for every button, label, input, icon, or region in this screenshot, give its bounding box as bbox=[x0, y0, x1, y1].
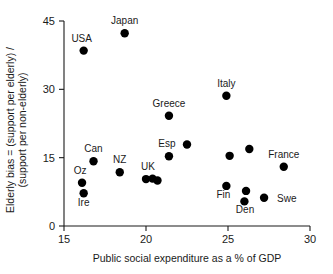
data-point-label-oz: Oz bbox=[74, 165, 87, 176]
data-point-esp bbox=[165, 152, 173, 160]
data-point-label-fin: Fin bbox=[216, 189, 230, 200]
data-point-label-greece: Greece bbox=[153, 98, 186, 109]
data-point-italy bbox=[222, 92, 230, 100]
data-point-nz bbox=[116, 168, 124, 176]
data-point-label-esp: Esp bbox=[158, 138, 176, 149]
y-tick-label: 45 bbox=[43, 15, 55, 27]
data-point-label-japan: Japan bbox=[111, 15, 138, 26]
data-point-label-swe: Swe bbox=[277, 193, 297, 204]
x-tick-label: 25 bbox=[222, 233, 234, 245]
y-tick-label: 15 bbox=[43, 152, 55, 164]
data-point-label-den: Den bbox=[236, 204, 254, 215]
y-tick-label: 30 bbox=[43, 83, 55, 95]
chart-axes bbox=[59, 21, 310, 231]
y-tick-label: 0 bbox=[49, 220, 55, 232]
data-point bbox=[240, 197, 248, 205]
data-point-label-uk: UK bbox=[141, 161, 155, 172]
data-point-france bbox=[280, 163, 288, 171]
scatter-chart-figure: 15202530 0153045 USAJapanItalyGreeceEspC… bbox=[0, 0, 333, 274]
x-tick-label: 30 bbox=[304, 233, 316, 245]
data-point-can bbox=[89, 157, 97, 165]
y-axis-title-line-2: (support per non-elderly) bbox=[16, 73, 28, 188]
data-point bbox=[225, 152, 233, 160]
data-point-ire bbox=[79, 189, 87, 197]
x-tick-label: 15 bbox=[58, 233, 70, 245]
data-point bbox=[153, 176, 161, 184]
x-axis-tick-labels: 15202530 bbox=[58, 233, 316, 245]
data-points-layer: USAJapanItalyGreeceEspCanFranceNZUKOzFin… bbox=[71, 15, 299, 215]
data-point-label-france: France bbox=[268, 149, 300, 160]
x-axis-title: Public social expenditure as a % of GDP bbox=[93, 252, 282, 264]
data-point-label-ire: Ire bbox=[78, 197, 90, 208]
data-point-usa bbox=[79, 46, 87, 54]
data-point bbox=[245, 145, 253, 153]
data-point-label-italy: Italy bbox=[217, 78, 235, 89]
data-point-label-can: Can bbox=[84, 143, 102, 154]
y-axis-title-line-1: Elderly bias = (support per elderly) / bbox=[4, 47, 16, 213]
data-point-den bbox=[242, 187, 250, 195]
data-point-label-usa: USA bbox=[71, 33, 92, 44]
data-point bbox=[183, 140, 191, 148]
y-axis-tick-labels: 0153045 bbox=[43, 15, 55, 232]
scatter-plot-svg: 15202530 0153045 USAJapanItalyGreeceEspC… bbox=[0, 0, 333, 274]
data-point-oz bbox=[78, 179, 86, 187]
data-point-swe bbox=[260, 194, 268, 202]
x-tick-label: 20 bbox=[140, 233, 152, 245]
data-point-greece bbox=[165, 112, 173, 120]
data-point-japan bbox=[120, 29, 128, 37]
data-point-label-nz: NZ bbox=[113, 154, 126, 165]
